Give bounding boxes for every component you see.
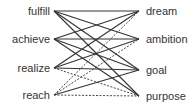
node-ambition: ambition: [146, 33, 188, 45]
node-dream: dream: [146, 5, 177, 17]
edge-realize-goal: [54, 68, 139, 70]
node-achieve: achieve: [12, 33, 50, 45]
node-realize: realize: [18, 62, 50, 74]
node-goal: goal: [146, 64, 167, 76]
node-purpose: purpose: [146, 90, 186, 102]
bipartite-word-diagram: fulfill achieve realize reach dream ambi…: [0, 0, 195, 108]
node-reach: reach: [22, 89, 50, 101]
edge-reach-purpose: [54, 95, 139, 96]
node-fulfill: fulfill: [28, 5, 50, 17]
